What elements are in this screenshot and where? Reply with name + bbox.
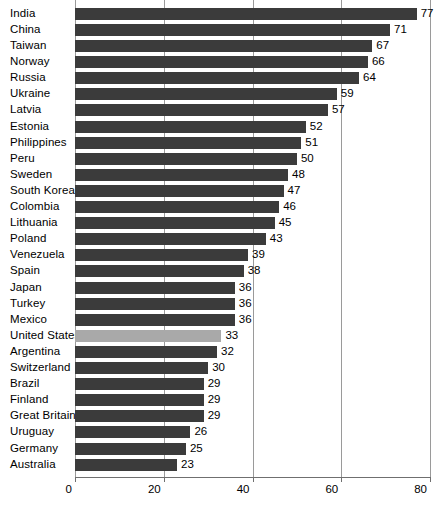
category-label: China [10, 24, 41, 36]
bar[interactable] [75, 233, 266, 245]
bar-value-label: 30 [212, 362, 225, 374]
bar-row[interactable]: India77 [0, 6, 447, 23]
bar-row[interactable]: Lithuania45 [0, 215, 447, 232]
bar-value-label: 26 [194, 427, 207, 439]
category-label: Germany [10, 443, 58, 455]
bar[interactable] [75, 72, 359, 84]
bar-value-label: 32 [221, 346, 234, 358]
bar[interactable] [75, 346, 217, 358]
category-label: Taiwan [10, 40, 46, 52]
bar[interactable] [75, 459, 177, 471]
bar-row[interactable]: Spain38 [0, 263, 447, 280]
category-label: Finland [10, 394, 48, 406]
x-tick-label-40: 40 [237, 484, 253, 496]
bar[interactable] [75, 56, 368, 68]
bar-value-label: 25 [190, 443, 203, 455]
category-label: Argentina [10, 346, 60, 358]
category-label: Switzerland [10, 362, 71, 374]
bar[interactable] [75, 40, 372, 52]
bar-row[interactable]: Norway66 [0, 54, 447, 71]
bar[interactable] [75, 88, 337, 100]
bar[interactable] [75, 104, 328, 116]
bar[interactable] [75, 410, 204, 422]
bar-value-label: 47 [288, 185, 301, 197]
x-tick-mark-40 [253, 477, 254, 482]
bar-row[interactable]: Venezuela39 [0, 247, 447, 264]
bar-row[interactable]: Sweden48 [0, 167, 447, 184]
x-tick-mark-0 [75, 477, 76, 482]
bar[interactable] [75, 265, 244, 277]
bar[interactable] [75, 443, 186, 455]
bar-chart: India77China71Taiwan67Norway66Russia64Uk… [0, 0, 447, 511]
category-label: Sweden [10, 169, 52, 181]
bar-row[interactable]: Estonia52 [0, 118, 447, 135]
category-label: Venezuela [10, 250, 65, 262]
bar-row[interactable]: Taiwan67 [0, 38, 447, 55]
bar-value-label: 66 [372, 56, 385, 68]
x-tick-label-60: 60 [325, 484, 341, 496]
bar-row[interactable]: Switzerland30 [0, 360, 447, 377]
bar-value-label: 48 [292, 169, 305, 181]
bar[interactable] [75, 8, 417, 20]
bar[interactable] [75, 378, 204, 390]
x-tick-mark-20 [164, 477, 165, 482]
bar-row[interactable]: South Korea47 [0, 183, 447, 200]
bar[interactable] [75, 121, 306, 133]
bar-value-label: 29 [208, 394, 221, 406]
x-tick-label-0: 0 [66, 484, 75, 496]
bar-row[interactable]: China71 [0, 22, 447, 39]
bar-row[interactable]: Russia64 [0, 70, 447, 87]
category-label: United States [10, 330, 80, 342]
bar[interactable] [75, 394, 204, 406]
category-label: Colombia [10, 201, 59, 213]
bar-row[interactable]: Ukraine59 [0, 86, 447, 103]
bar-value-label: 67 [376, 40, 389, 52]
bar-row[interactable]: Poland43 [0, 231, 447, 248]
bar[interactable] [75, 282, 235, 294]
bar[interactable] [75, 153, 297, 165]
bar-row[interactable]: Japan36 [0, 279, 447, 296]
bar-row[interactable]: Germany25 [0, 440, 447, 457]
bar[interactable] [75, 137, 301, 149]
bar-row[interactable]: Mexico36 [0, 311, 447, 328]
category-label: Norway [10, 56, 50, 68]
bar-row[interactable]: Philippines51 [0, 134, 447, 151]
bar[interactable] [75, 169, 288, 181]
bar[interactable] [75, 24, 390, 36]
bar-value-label: 59 [341, 89, 354, 101]
bar-row[interactable]: United States33 [0, 328, 447, 345]
bar-row[interactable]: Colombia46 [0, 199, 447, 216]
bar[interactable] [75, 217, 275, 229]
bar-row[interactable]: Argentina32 [0, 344, 447, 361]
bar-row[interactable]: Australia23 [0, 456, 447, 473]
bar[interactable] [75, 362, 208, 374]
bar-row[interactable]: Turkey36 [0, 295, 447, 312]
bar-value-label: 38 [248, 266, 261, 278]
bar[interactable] [75, 249, 248, 261]
category-label: Philippines [10, 137, 67, 149]
bar-row[interactable]: Uruguay26 [0, 424, 447, 441]
category-label: Australia [10, 459, 56, 471]
category-label: Japan [10, 282, 42, 294]
category-label: South Korea [10, 185, 75, 197]
bar-row[interactable]: Latvia57 [0, 102, 447, 119]
category-label: Estonia [10, 121, 49, 133]
bar[interactable] [75, 314, 235, 326]
category-label: Lithuania [10, 217, 58, 229]
bar-value-label: 29 [208, 411, 221, 423]
category-label: Ukraine [10, 89, 50, 101]
bar[interactable] [75, 426, 190, 438]
bar[interactable] [75, 298, 235, 310]
bar-row[interactable]: Brazil29 [0, 376, 447, 393]
bar[interactable] [75, 201, 279, 213]
bar-value-label: 52 [310, 121, 323, 133]
category-label: Russia [10, 72, 46, 84]
bar-row[interactable]: Finland29 [0, 392, 447, 409]
bar-highlighted[interactable] [75, 330, 221, 342]
bar-value-label: 64 [363, 72, 376, 84]
bar-row[interactable]: Peru50 [0, 150, 447, 167]
bar-value-label: 33 [225, 330, 238, 342]
bar[interactable] [75, 185, 284, 197]
bar-row[interactable]: Great Britain29 [0, 408, 447, 425]
category-label: Mexico [10, 314, 47, 326]
